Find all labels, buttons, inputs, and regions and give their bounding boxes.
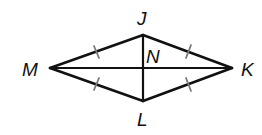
vertex-label-m: M [22, 59, 38, 80]
vertex-label-l: L [137, 109, 148, 130]
side-kl [143, 68, 232, 101]
vertex-label-j: J [136, 8, 147, 29]
intersection-label-n: N [146, 46, 160, 67]
vertex-label-k: K [241, 59, 255, 80]
rhombus-diagram: J M K L N [0, 0, 262, 135]
